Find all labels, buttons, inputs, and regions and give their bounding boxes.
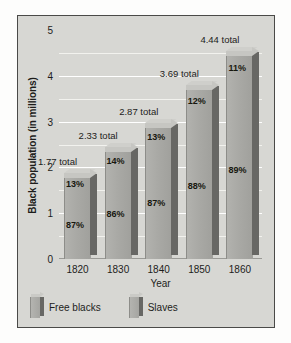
bar-top-face xyxy=(226,51,252,56)
y-tick-label: 1 xyxy=(47,208,53,219)
legend-label: Free blacks xyxy=(49,302,101,313)
bar-side-face xyxy=(252,52,259,255)
bar-label-slaves: 86% xyxy=(107,209,125,219)
chart-legend: Free blacks Slaves xyxy=(28,297,204,318)
bar-total-label: 3.69 total xyxy=(160,68,199,79)
bar-top-face xyxy=(64,173,90,178)
x-tick-label: 1820 xyxy=(61,264,94,275)
chart-figure: Black population (in millions) 01234587%… xyxy=(0,0,291,343)
x-tick-label: 1840 xyxy=(142,264,175,275)
bar-label-free-blacks: 14% xyxy=(107,156,125,166)
legend-swatch-icon xyxy=(30,297,40,318)
y-axis-title: Black population (in millions) xyxy=(24,32,40,258)
bar-group[interactable]: 87%13%2.87 total1840 xyxy=(145,128,171,259)
x-tick-label: 1850 xyxy=(183,264,216,275)
bar-label-free-blacks: 13% xyxy=(147,132,165,142)
bar-side-face xyxy=(212,86,219,255)
y-tick-label: 0 xyxy=(47,254,53,265)
bar-side-face xyxy=(131,148,138,255)
bar-top-face xyxy=(186,85,212,90)
bar-side-face xyxy=(171,124,178,255)
x-tick-label: 1860 xyxy=(223,264,256,275)
legend-swatch-icon xyxy=(129,297,139,318)
bar-side-face xyxy=(90,174,97,255)
bar-top-face xyxy=(105,147,131,152)
x-axis-title: Year xyxy=(59,278,262,289)
bar-top-face xyxy=(145,123,171,128)
chart-panel: Black population (in millions) 01234587%… xyxy=(17,15,275,328)
bar-label-free-blacks: 13% xyxy=(66,179,84,189)
bar-label-slaves: 89% xyxy=(228,165,246,175)
bar-label-slaves: 88% xyxy=(188,181,206,191)
bar-total-label: 2.33 total xyxy=(79,130,118,141)
bar-group[interactable]: 86%14%2.33 total1830 xyxy=(105,152,131,259)
x-tick-label: 1830 xyxy=(102,264,135,275)
bar-total-label: 4.44 total xyxy=(200,34,239,45)
bar-total-label: 2.87 total xyxy=(119,106,158,117)
bar-group[interactable]: 88%12%3.69 total1850 xyxy=(186,90,212,259)
y-tick-label: 5 xyxy=(47,25,53,36)
plot-area: 01234587%13%1.77 total182086%14%2.33 tot… xyxy=(59,30,262,259)
legend-item-slaves: Slaves xyxy=(127,297,178,318)
y-tick-label: 4 xyxy=(47,70,53,81)
bar-label-free-blacks: 11% xyxy=(228,63,246,73)
bar-group[interactable]: 87%13%1.77 total1820 xyxy=(64,178,90,259)
y-axis-title-text: Black population (in millions) xyxy=(27,77,38,213)
bar-group[interactable]: 89%11%4.44 total1860 xyxy=(226,56,252,259)
bar-label-slaves: 87% xyxy=(147,198,165,208)
legend-label: Slaves xyxy=(148,302,178,313)
legend-item-free-blacks: Free blacks xyxy=(28,297,101,318)
bar-total-label: 1.77 total xyxy=(38,156,77,167)
bar-label-slaves: 87% xyxy=(66,220,84,230)
y-tick-label: 3 xyxy=(47,116,53,127)
bar-label-free-blacks: 12% xyxy=(188,96,206,106)
